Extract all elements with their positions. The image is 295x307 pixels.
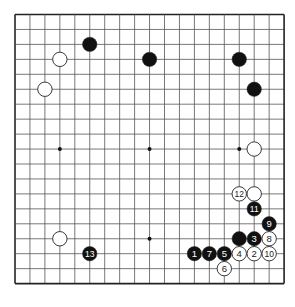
move-number: 5 xyxy=(222,248,227,259)
black-stone-9: 9 xyxy=(262,217,276,231)
move-number: 4 xyxy=(237,248,242,259)
black-stone-13: 13 xyxy=(83,247,97,261)
black-stone xyxy=(232,232,246,246)
move-number: 2 xyxy=(252,248,257,259)
black-stone xyxy=(232,52,246,66)
black-stone xyxy=(83,37,97,51)
black-stone-1: 1 xyxy=(187,247,201,261)
stones-layer: 12345678910111213 xyxy=(38,37,277,276)
black-stone xyxy=(142,52,156,66)
move-number: 13 xyxy=(85,249,95,259)
black-stone-11: 11 xyxy=(247,202,261,216)
black-stone-7: 7 xyxy=(202,247,216,261)
move-number: 8 xyxy=(267,233,272,244)
move-number: 3 xyxy=(252,233,257,244)
white-stone-12: 12 xyxy=(232,187,246,201)
white-stone-8: 8 xyxy=(262,232,276,246)
star-point xyxy=(148,147,152,151)
move-number: 10 xyxy=(264,249,274,259)
white-stone-2: 2 xyxy=(247,247,261,261)
move-number: 9 xyxy=(267,218,272,229)
white-stone xyxy=(247,142,261,156)
star-point xyxy=(58,147,62,151)
white-stone xyxy=(247,187,261,201)
white-stone-4: 4 xyxy=(232,247,246,261)
black-stone-3: 3 xyxy=(247,232,261,246)
white-stone-6: 6 xyxy=(217,261,231,275)
move-number: 12 xyxy=(235,189,245,199)
move-number: 11 xyxy=(250,204,259,214)
go-board: 12345678910111213 xyxy=(0,0,295,307)
move-number: 1 xyxy=(192,248,197,259)
black-stone-5: 5 xyxy=(217,247,231,261)
star-point xyxy=(148,237,152,241)
white-stone-10: 10 xyxy=(262,247,276,261)
white-stone xyxy=(53,52,67,66)
white-stone xyxy=(53,232,67,246)
star-point xyxy=(237,147,241,151)
move-number: 7 xyxy=(207,248,212,259)
white-stone xyxy=(38,82,52,96)
move-number: 6 xyxy=(222,263,227,274)
black-stone xyxy=(247,82,261,96)
